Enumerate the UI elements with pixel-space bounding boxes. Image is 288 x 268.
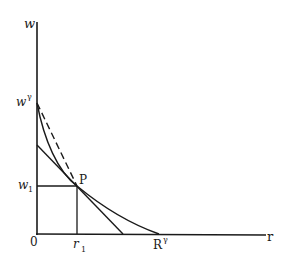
origin-label: 0	[30, 235, 38, 249]
wage-profit-diagram: w r 0 w γ w 1 P r 1 R γ	[0, 0, 288, 268]
r-star-label: R	[153, 238, 163, 252]
r-star-superscript: γ	[163, 235, 168, 244]
w-gamma-superscript: γ	[27, 92, 32, 101]
point-p-label: P	[79, 173, 87, 187]
x-axis-label: r	[267, 229, 274, 244]
y-axis-label: w	[24, 16, 35, 31]
r1-subscript: 1	[81, 245, 86, 254]
dashed-chord	[37, 103, 77, 186]
x-axis	[36, 234, 266, 235]
w-gamma-label: w	[16, 95, 27, 109]
w1-subscript: 1	[28, 185, 33, 194]
tangent-line	[37, 145, 123, 234]
r1-label: r	[73, 237, 80, 251]
convex-curve	[37, 103, 159, 234]
